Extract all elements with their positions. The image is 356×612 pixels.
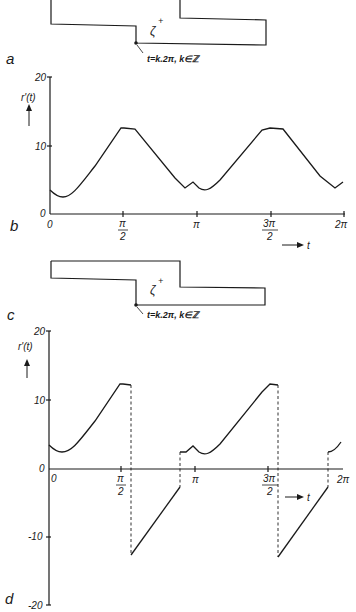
svg-text:0: 0 [51,473,57,484]
svg-text:π: π [117,473,124,484]
panel-label-a: a [6,50,14,67]
svg-text:t=k.2π, k∈ℤ: t=k.2π, k∈ℤ [147,310,201,320]
svg-text:10: 10 [34,395,46,406]
panel-b-chart: 20 10 0 r'(t) 0 π 2 π 3π 2 2π t b [10,72,348,251]
svg-text:20: 20 [33,326,46,337]
svg-text:t: t [307,492,311,503]
panel-d-chart: 20 10 0 -10 -20 r'(t) 0 π 2 π 3π 2 2π t … [5,326,350,611]
svg-text:+: + [158,276,163,286]
svg-text:0: 0 [47,219,53,230]
svg-text:t: t [307,240,311,251]
svg-text:r'(t): r'(t) [18,341,33,352]
svg-text:π: π [119,218,126,229]
figure: ζ + t=k.2π, k∈ℤ a 20 10 0 r'(t) 0 π 2 π … [0,0,356,612]
svg-text:3π: 3π [263,473,276,484]
y-axis-label: r'(t) [21,92,36,103]
svg-text:+: + [158,16,163,26]
svg-text:π: π [192,474,199,485]
svg-text:-10: -10 [28,531,43,542]
panel-label-d: d [5,590,14,607]
svg-text:0: 0 [40,208,46,219]
svg-text:2π: 2π [334,219,348,230]
svg-text:3π: 3π [263,218,276,229]
svg-text:2: 2 [117,486,124,497]
svg-text:20: 20 [34,72,47,83]
svg-text:2π: 2π [336,474,350,485]
panel-label-b: b [10,217,18,234]
svg-text:2: 2 [266,231,273,242]
svg-text:π: π [193,219,200,230]
marked-point [134,41,138,45]
svg-text:2: 2 [119,231,126,242]
panel-label-c: c [7,306,15,323]
svg-text:0: 0 [39,463,45,474]
zeta-symbol: ζ [150,24,157,38]
point-label: t=k.2π, k∈ℤ [147,54,201,64]
svg-text:2: 2 [266,486,273,497]
panel-c-domain: ζ + t=k.2π, k∈ℤ c [7,261,265,323]
svg-text:-20: -20 [28,600,43,611]
panel-a-domain: ζ + t=k.2π, k∈ℤ a [6,0,266,67]
marked-point [134,303,138,307]
svg-text:10: 10 [35,141,47,152]
svg-text:ζ: ζ [150,283,157,297]
